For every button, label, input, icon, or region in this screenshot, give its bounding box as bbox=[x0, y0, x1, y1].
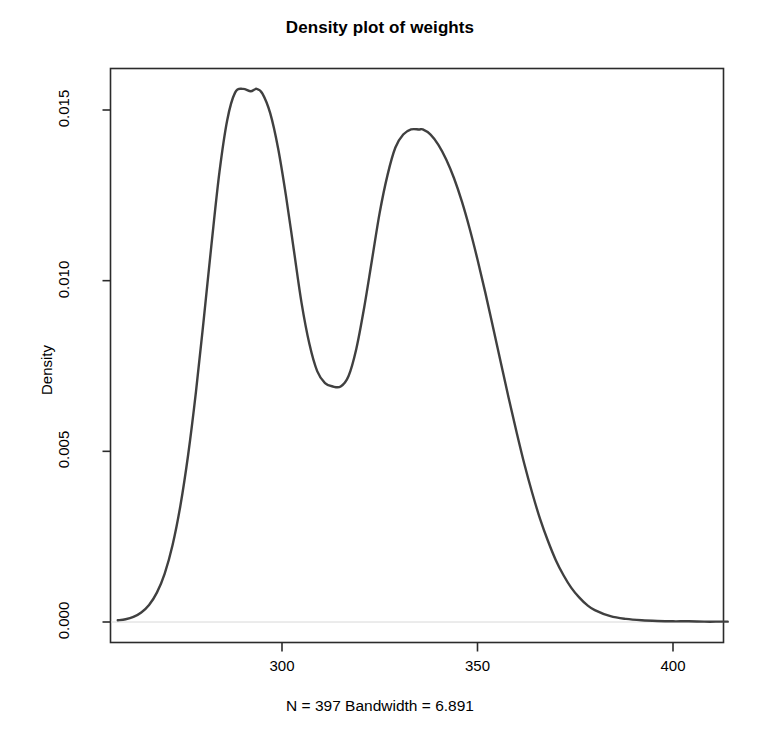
plot-caption: N = 397 Bandwidth = 6.891 bbox=[0, 697, 760, 715]
x-tick-marks bbox=[282, 643, 673, 652]
density-plot-figure: Density plot of weights Density 0.000 0.… bbox=[0, 0, 760, 747]
plot-frame bbox=[111, 69, 724, 643]
y-tick-marks bbox=[103, 110, 111, 622]
density-curve bbox=[118, 89, 728, 622]
plot-canvas bbox=[0, 0, 760, 747]
axis-group bbox=[103, 69, 724, 652]
